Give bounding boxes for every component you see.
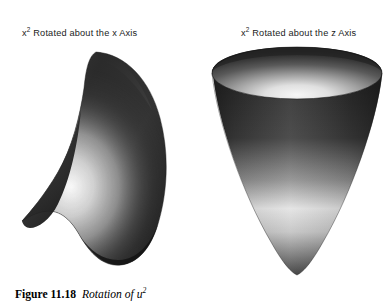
- figure-caption-text-body: Rotation of u: [82, 288, 143, 301]
- panel-label-x-rest: Rotated about the x Axis: [31, 28, 138, 38]
- figure-caption-label: Figure 11.18: [15, 288, 76, 301]
- figure-container: x2 Rotated about the x Axis x2 Rotated a…: [0, 0, 390, 306]
- figure-caption-text: Rotation of u2: [82, 288, 146, 301]
- surface-plot-rotated-about-x-axis: [0, 44, 200, 274]
- figure-caption: Figure 11.18Rotation of u2: [15, 284, 146, 302]
- figure-caption-text-exponent: 2: [143, 286, 147, 295]
- panel-label-x-axis: x2 Rotated about the x Axis: [22, 29, 137, 38]
- surface-body-x: [0, 44, 200, 274]
- panel-label-z-axis: x2 Rotated about the z Axis: [241, 29, 356, 38]
- surface-plot-rotated-about-z-axis: [205, 44, 390, 279]
- panel-label-z-rest: Rotated about the z Axis: [250, 28, 357, 38]
